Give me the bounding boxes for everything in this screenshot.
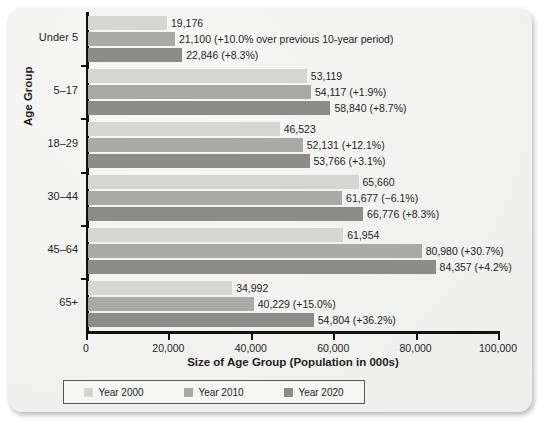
bar-group: 45–6461,95480,980 (+30.7%)84,357 (+4.2%) [86,225,498,278]
chart-canvas: Age Group Under 519,17621,100 (+10.0% ov… [8,8,532,412]
bar-value-label: 53,119 [307,69,342,83]
bar[interactable] [88,16,167,30]
x-axis-tick-label: 80,000 [400,342,432,354]
bar[interactable] [88,175,359,189]
bar[interactable] [88,191,342,205]
chart-card: Age Group Under 519,17621,100 (+10.0% ov… [8,8,532,412]
y-axis-tick-label: 5–17 [54,84,78,96]
bar-group: 5–1753,11954,117 (+1.9%)58,840 (+8.7%) [86,65,498,118]
bar-value-label: 52,131 (+12.1%) [303,138,385,152]
bar-value-label: 21,100 (+10.0% over previous 10-year per… [175,32,394,46]
x-axis-tick [86,334,88,340]
bar[interactable] [88,138,303,152]
bar-value-label: 54,117 (+1.9%) [311,85,386,99]
x-axis-tick-label: 20,000 [152,342,184,354]
bar[interactable] [88,122,280,136]
legend-swatch-year-2020 [284,388,293,397]
y-axis-title: Age Group [22,67,34,126]
legend-swatch-year-2000 [84,388,93,397]
bar[interactable] [88,48,182,62]
bar-value-label: 54,804 (+36.2%) [314,313,396,327]
bar[interactable] [88,85,311,99]
y-axis-tick [81,278,87,280]
bar-value-label: 19,176 [167,16,203,30]
bar-value-label: 66,776 (+8.3%) [363,207,439,221]
bar-value-label: 80,980 (+30.7%) [422,244,504,258]
bar-group: 18–2946,52352,131 (+12.1%)53,766 (+3.1%) [86,118,498,171]
bar[interactable] [88,260,436,274]
y-axis-tick [81,65,87,67]
y-axis-tick-label: 18–29 [47,137,78,149]
bar[interactable] [88,281,232,295]
x-axis-tick [168,334,170,340]
legend-item[interactable]: Year 2000 [84,387,143,398]
bar-group: Under 519,17621,100 (+10.0% over previou… [86,12,498,65]
legend-item[interactable]: Year 2010 [184,387,243,398]
y-axis-tick [81,118,87,120]
bar-value-label: 34,992 [232,281,268,295]
legend-swatch-year-2010 [184,388,193,397]
legend-label: Year 2020 [298,387,343,398]
bar-value-label: 61,677 (−6.1%) [342,191,418,205]
y-axis-tick-label: 45–64 [47,243,78,255]
bar[interactable] [88,154,310,168]
bar[interactable] [88,101,330,115]
bar-value-label: 53,766 (+3.1%) [310,154,386,168]
x-axis-tick [333,334,335,340]
bar[interactable] [88,32,175,46]
x-axis-line [86,331,500,334]
y-axis-tick-label: Under 5 [39,31,78,43]
y-axis-tick-label: 30–44 [47,190,78,202]
bar[interactable] [88,313,314,327]
bar[interactable] [88,297,254,311]
bar-value-label: 65,660 [359,175,395,189]
plot-area: Under 519,17621,100 (+10.0% over previou… [86,12,498,334]
x-axis-tick [498,334,500,340]
legend-label: Year 2010 [198,387,243,398]
bar[interactable] [88,228,343,242]
x-axis-title: Size of Age Group (Population in 000s) [86,356,500,368]
x-axis-tick-label: 100,000 [479,342,517,354]
x-axis-tick-label: 60,000 [317,342,349,354]
bar-group: 30–4465,66061,677 (−6.1%)66,776 (+8.3%) [86,172,498,225]
y-axis-tick-label: 65+ [59,296,78,308]
bar[interactable] [88,207,363,221]
bar-value-label: 61,954 [343,228,379,242]
bar-value-label: 46,523 [280,122,316,136]
bar[interactable] [88,244,422,258]
bar-value-label: 84,357 (+4.2%) [436,260,512,274]
bar-value-label: 22,846 (+8.3%) [182,48,258,62]
bar-group: 65+34,99240,229 (+15.0%)54,804 (+36.2%) [86,278,498,331]
legend-item[interactable]: Year 2020 [284,387,343,398]
chart-legend: Year 2000 Year 2010 Year 2020 [63,380,365,404]
bar[interactable] [88,69,307,83]
bar-value-label: 40,229 (+15.0%) [254,297,336,311]
x-axis-tick [416,334,418,340]
x-axis-tick [251,334,253,340]
y-axis-tick [81,225,87,227]
legend-label: Year 2000 [98,387,143,398]
x-axis-tick-label: 0 [83,342,89,354]
bar-value-label: 58,840 (+8.7%) [330,101,406,115]
y-axis-tick [81,172,87,174]
x-axis-tick-label: 40,000 [235,342,267,354]
